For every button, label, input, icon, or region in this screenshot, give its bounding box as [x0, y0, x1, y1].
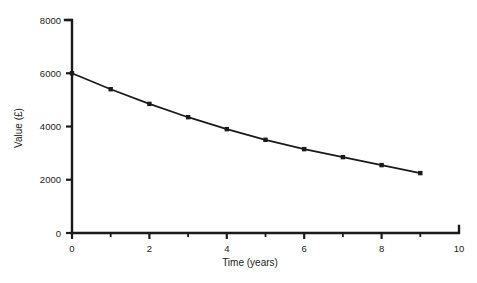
x-tick-label: 6 [302, 243, 307, 254]
x-axis-tick-labels: 0246810 [69, 243, 464, 254]
value-depreciation-chart: 02000400060008000 0246810 Time (years) V… [0, 0, 477, 283]
data-point-marker [186, 115, 190, 119]
x-tick-label: 4 [224, 243, 229, 254]
data-point-marker [302, 147, 306, 151]
y-axis-tick-labels: 02000400060008000 [40, 15, 61, 239]
x-tick-label: 0 [69, 243, 74, 254]
x-tick-label: 8 [379, 243, 384, 254]
data-point-marker [109, 87, 113, 91]
data-point-marker [418, 171, 422, 175]
x-tick-label: 2 [147, 243, 152, 254]
data-point-marker [263, 138, 267, 142]
y-tick-label: 6000 [40, 68, 61, 79]
data-point-marker [225, 127, 229, 131]
x-axis-line [72, 226, 459, 233]
data-point-marker [341, 155, 345, 159]
data-point-marker [147, 102, 151, 106]
y-tick-label: 0 [56, 228, 61, 239]
y-tick-label: 4000 [40, 121, 61, 132]
series-markers-value [70, 71, 423, 175]
x-tick-label: 10 [454, 243, 465, 254]
series-line-value [72, 73, 420, 173]
data-point-marker [70, 71, 74, 75]
x-axis-title: Time (years) [222, 257, 278, 268]
y-tick-label: 2000 [40, 174, 61, 185]
chart-canvas: 02000400060008000 0246810 Time (years) V… [0, 0, 477, 283]
y-tick-label: 8000 [40, 15, 61, 26]
data-point-marker [379, 163, 383, 167]
y-axis-title: Value (£) [13, 108, 24, 148]
